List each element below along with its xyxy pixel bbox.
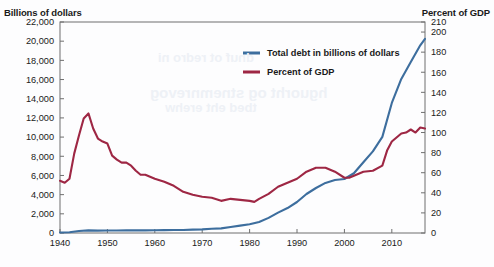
x-tick-label: 1980 <box>239 238 259 248</box>
right-tick-label: 40 <box>431 188 441 198</box>
data-series-group <box>60 39 425 233</box>
left-tick-label: 10,000 <box>26 132 54 142</box>
chart-legend: Total debt in billions of dollarsPercent… <box>243 48 400 77</box>
left-tick-label: 14,000 <box>26 94 54 104</box>
left-axis-ticks: 02,0004,0006,0008,00010,00012,00014,0001… <box>26 17 64 238</box>
right-tick-label: 210 <box>431 17 446 27</box>
x-tick-label: 1990 <box>287 238 307 248</box>
left-tick-label: 4,000 <box>31 190 54 200</box>
right-tick-label: 20 <box>431 208 441 218</box>
left-tick-label: 16,000 <box>26 75 54 85</box>
series-line-percent-gdp <box>60 113 425 201</box>
right-tick-label: 160 <box>431 68 446 78</box>
left-tick-label: 12,000 <box>26 113 54 123</box>
chart-plot-area: 02,0004,0006,0008,00010,00012,00014,0001… <box>0 0 494 267</box>
x-tick-label: 2000 <box>334 238 354 248</box>
x-tick-label: 1960 <box>145 238 165 248</box>
right-axis-title: Percent of GDP <box>422 7 490 18</box>
cropped-footnote <box>6 263 426 267</box>
x-tick-label: 2010 <box>382 238 402 248</box>
left-tick-label: 20,000 <box>26 36 54 46</box>
right-tick-label: 200 <box>431 27 446 37</box>
right-tick-label: 180 <box>431 47 446 57</box>
right-tick-label: 140 <box>431 88 446 98</box>
left-tick-label: 0 <box>49 228 54 238</box>
x-axis-ticks: 19401950196019701980199020002010 <box>50 229 402 248</box>
right-tick-label: 0 <box>431 228 436 238</box>
left-tick-label: 22,000 <box>26 17 54 27</box>
left-tick-label: 18,000 <box>26 56 54 66</box>
left-tick-label: 2,000 <box>31 209 54 219</box>
bleed-through-text-line2: tbed eht erehw <box>165 100 257 115</box>
legend-label: Total debt in billions of dollars <box>267 48 400 58</box>
legend-label: Percent of GDP <box>267 67 334 77</box>
bleed-through-text-line3: dnuf ot redro ni <box>158 50 254 65</box>
right-tick-label: 60 <box>431 168 441 178</box>
x-tick-label: 1940 <box>50 238 70 248</box>
right-tick-label: 100 <box>431 128 446 138</box>
right-tick-label: 80 <box>431 148 441 158</box>
x-tick-label: 1950 <box>97 238 117 248</box>
right-tick-label: 120 <box>431 108 446 118</box>
bleed-through-text-line1: hguorht og stnemnrevog <box>150 84 328 101</box>
series-line-total-debt <box>60 39 425 233</box>
left-axis-title: Billions of dollars <box>4 7 82 18</box>
x-tick-label: 1970 <box>192 238 212 248</box>
left-tick-label: 6,000 <box>31 171 54 181</box>
left-tick-label: 8,000 <box>31 152 54 162</box>
chart-figure: Billions of dollars Percent of GDP hguor… <box>0 0 494 267</box>
